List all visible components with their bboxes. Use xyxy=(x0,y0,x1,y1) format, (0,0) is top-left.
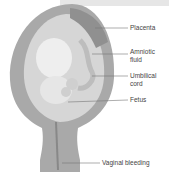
label-amniotic-fluid-1: Amniotic xyxy=(130,48,155,55)
label-fetus: Fetus xyxy=(130,96,146,103)
label-amniotic-fluid-2: fluid xyxy=(130,56,142,63)
label-vaginal-bleeding: Vaginal bleeding xyxy=(102,159,150,166)
label-placenta: Placenta xyxy=(130,24,155,31)
label-umbilical-cord-2: cord xyxy=(130,80,143,87)
label-umbilical-cord-1: Umbilical xyxy=(130,72,156,79)
